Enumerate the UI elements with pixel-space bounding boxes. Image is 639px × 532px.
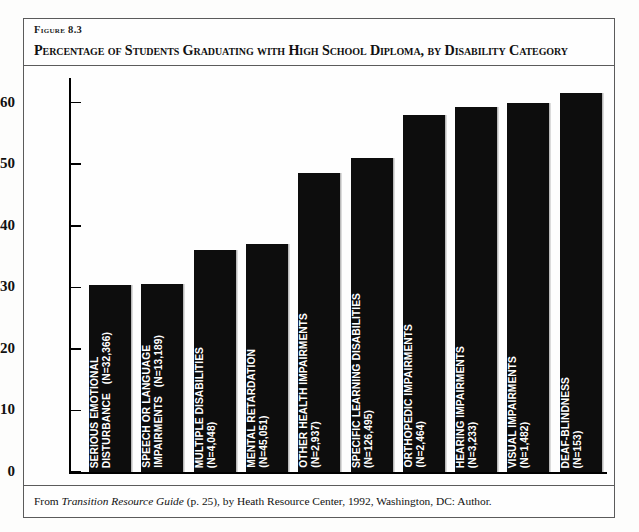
y-tick-label: 10 xyxy=(0,402,15,417)
bar-label-count: (N=45,051) xyxy=(258,349,270,468)
plot-area: 0102030405060 SERIOUS EMOTIONALDISTURBAN… xyxy=(24,66,614,485)
bar-label: SPEECH OR LANGUAGEIMPAIRMENTS (N=13,189) xyxy=(141,332,183,468)
figure-header: Figure 8.3 Percentage of Students Gradua… xyxy=(24,19,614,66)
y-tick-label: 50 xyxy=(0,156,15,171)
bar[interactable]: DEAF-BLINDNESS(N=153) xyxy=(560,93,602,472)
bar-label-count: (N=2,464) xyxy=(415,324,427,468)
bar-label-category: SPECIFIC LEARNING DISABILITIES xyxy=(351,293,363,468)
x-axis-line xyxy=(69,472,607,474)
source-note-text: From Transition Resource Guide (p. 25), … xyxy=(34,495,492,507)
bar-label-category: SPEECH OR LANGUAGE xyxy=(141,335,153,468)
bar-label-count: (N=2,937) xyxy=(311,313,323,468)
bar[interactable]: SERIOUS EMOTIONALDISTURBANCE (N=32,366) xyxy=(89,285,131,472)
figure-box: Figure 8.3 Percentage of Students Gradua… xyxy=(23,18,615,518)
bar-series: SERIOUS EMOTIONALDISTURBANCE (N=32,366)S… xyxy=(24,66,614,472)
bar[interactable]: HEARING IMPAIRMENTS(N=3,233) xyxy=(455,107,497,472)
source-note-title: Transition Resource Guide xyxy=(62,495,184,507)
bar-label: SERIOUS EMOTIONALDISTURBANCE (N=32,366) xyxy=(89,329,131,468)
figure-title: Percentage of Students Graduating with H… xyxy=(34,42,608,59)
bar-label-category: OTHER HEALTH IMPAIRMENTS xyxy=(298,313,310,468)
source-note: From Transition Resource Guide (p. 25), … xyxy=(24,485,614,517)
bar-label-category: ORTHOPEDIC IMPAIRMENTS xyxy=(403,324,415,468)
source-note-suffix: (p. 25), by Heath Resource Center, 1992,… xyxy=(184,495,492,507)
source-note-prefix: From xyxy=(34,495,62,507)
bar-label: DEAF-BLINDNESS(N=153) xyxy=(560,374,602,468)
bar-label: ORTHOPEDIC IMPAIRMENTS(N=2,464) xyxy=(403,321,445,468)
bar-label: HEARING IMPAIRMENTS(N=3,233) xyxy=(455,343,497,468)
bar[interactable]: SPEECH OR LANGUAGEIMPAIRMENTS (N=13,189) xyxy=(141,284,183,472)
bar-label-count: IMPAIRMENTS (N=13,189) xyxy=(154,335,166,468)
bar[interactable]: VISUAL IMPAIRMENTS(N=1,482) xyxy=(507,103,549,472)
bar-label-category: HEARING IMPAIRMENTS xyxy=(455,346,467,468)
y-tick-label: 60 xyxy=(0,95,15,110)
bar-label-category: SERIOUS EMOTIONAL xyxy=(89,332,101,468)
bar-label-count: DISTURBANCE (N=32,366) xyxy=(101,332,113,468)
bar-label-count: (N=1,482) xyxy=(520,356,532,468)
bar-label: OTHER HEALTH IMPAIRMENTS(N=2,937) xyxy=(298,310,340,468)
bar[interactable]: OTHER HEALTH IMPAIRMENTS(N=2,937) xyxy=(298,173,340,472)
y-tick-label: 20 xyxy=(0,341,15,356)
bar-label: MENTAL RETARDATION(N=45,051) xyxy=(246,346,288,468)
bar-label-category: VISUAL IMPAIRMENTS xyxy=(507,356,519,468)
bar[interactable]: SPECIFIC LEARNING DISABILITIES(N=126,495… xyxy=(351,158,393,472)
y-tick-label: 0 xyxy=(0,464,15,479)
y-tick-label: 40 xyxy=(0,218,15,233)
bar-label-count: (N=4,048) xyxy=(206,347,218,468)
bar-label-count: (N=153) xyxy=(572,377,584,468)
bar-label-category: DEAF-BLINDNESS xyxy=(560,377,572,468)
bar-label-category: MULTIPLE DISABILITIES xyxy=(194,347,206,468)
bar-label: MULTIPLE DISABILITIES(N=4,048) xyxy=(194,344,236,468)
bar-label-count: (N=3,233) xyxy=(468,346,480,468)
bar-label-category: MENTAL RETARDATION xyxy=(246,349,258,468)
bar[interactable]: MENTAL RETARDATION(N=45,051) xyxy=(246,244,288,472)
bar-label: SPECIFIC LEARNING DISABILITIES(N=126,495… xyxy=(351,290,393,468)
figure-number: Figure 8.3 xyxy=(34,24,82,35)
figure-root: Figure 8.3 Percentage of Students Gradua… xyxy=(0,0,639,532)
bar[interactable]: ORTHOPEDIC IMPAIRMENTS(N=2,464) xyxy=(403,115,445,472)
y-tick-label: 30 xyxy=(0,279,15,294)
bar-label-count: (N=126,495) xyxy=(363,293,375,468)
bar[interactable]: MULTIPLE DISABILITIES(N=4,048) xyxy=(194,250,236,472)
bar-label: VISUAL IMPAIRMENTS(N=1,482) xyxy=(507,353,549,468)
